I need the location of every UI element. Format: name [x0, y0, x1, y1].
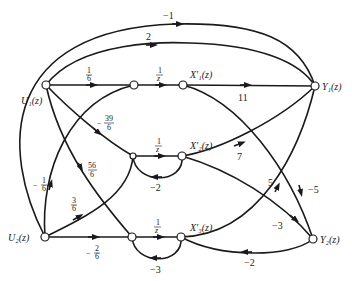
gain-u1-y1: 2	[146, 31, 151, 42]
label-y2: Y₂(z)	[320, 234, 340, 246]
gain-u1-a: 1 6	[86, 66, 92, 83]
signal-flow-graph: U₁(z) U₂(z) X′₁(z) X′₂(z) X′₃(z) Y₁(z) Y…	[0, 0, 352, 281]
label-u2: U₂(z)	[8, 232, 30, 244]
svg-text:−: −	[97, 119, 102, 128]
node-x1	[179, 81, 187, 89]
arrow-head	[299, 185, 301, 193]
gain-x2-y1: 7	[237, 151, 242, 162]
label-y1: Y₁(z)	[322, 81, 342, 93]
gain-u1-b: − 39 6	[97, 114, 114, 132]
edge-y2-x3	[181, 237, 313, 253]
edge-x1-y1	[183, 85, 315, 86]
gain-u1-c: 56 6	[88, 161, 97, 179]
svg-text:56: 56	[88, 161, 96, 170]
edge-x1-y2	[183, 85, 313, 239]
svg-text:z: z	[154, 226, 159, 235]
gain-b-x2: 1 z	[155, 137, 162, 154]
arrow-head	[234, 143, 242, 146]
gain-y2-x3: −2	[244, 257, 255, 268]
node-u1	[42, 81, 50, 89]
node-y2	[309, 235, 317, 243]
node-u2	[41, 233, 49, 241]
gain-x2-y2: −3	[272, 220, 283, 231]
gain-x2-loop: −2	[150, 182, 161, 193]
node-x2	[178, 152, 186, 160]
node-x3	[177, 233, 185, 241]
gain-u2-c: − 2 6	[86, 244, 100, 261]
gain-u2-a: − 1 6	[33, 176, 47, 193]
arrow-head	[49, 183, 51, 190]
svg-text:39: 39	[105, 114, 113, 123]
svg-text:6: 6	[107, 123, 111, 132]
node-b	[130, 153, 136, 159]
gain-u2-b: 3 6	[71, 196, 77, 213]
label-u1: U₁(z)	[21, 95, 43, 107]
svg-text:−: −	[33, 181, 38, 190]
node-c	[128, 233, 136, 241]
svg-text:6: 6	[87, 74, 91, 83]
gain-x1-y1: 11	[238, 92, 248, 103]
svg-text:6: 6	[72, 204, 76, 213]
gain-u2-y1: −1	[163, 10, 174, 21]
svg-text:6: 6	[90, 170, 94, 179]
arrow-head	[275, 186, 278, 192]
edge-x3-c-loop	[132, 237, 181, 259]
svg-text:z: z	[155, 145, 160, 154]
gain-a-x1: 1 z	[156, 66, 163, 83]
gain-x3-loop: −3	[150, 264, 161, 275]
svg-text:−: −	[86, 249, 91, 258]
label-x2: X′₂(z)	[189, 140, 213, 152]
svg-text:z: z	[156, 74, 161, 83]
edge-x2-b-loop	[133, 156, 182, 178]
label-x1: X′₁(z)	[189, 69, 213, 81]
gain-x1-y2: −5	[308, 184, 319, 195]
arrow-head	[93, 128, 99, 133]
gain-c-x3: 1 z	[154, 218, 161, 235]
edge-u1-b	[46, 85, 133, 156]
label-x3: X′₃(z)	[189, 222, 213, 234]
node-y1	[311, 82, 319, 90]
svg-text:6: 6	[95, 252, 99, 261]
svg-text:6: 6	[42, 184, 46, 193]
gain-x3-y1: 5	[268, 177, 273, 188]
node-a	[130, 81, 138, 89]
